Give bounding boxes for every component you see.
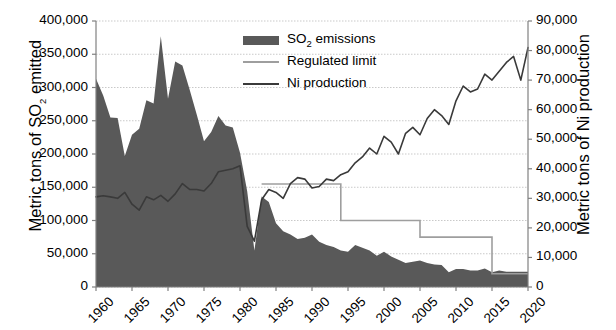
y-axis-right-tick-label: 80,000 (536, 42, 606, 57)
y-axis-left-tick-label: 0 (22, 278, 88, 293)
y-axis-right-tick-label: 60,000 (536, 101, 606, 116)
y-axis-left-tick-label: 250,000 (22, 112, 88, 127)
y-axis-right-tick-label: 40,000 (536, 160, 606, 175)
legend-line-swatch-icon (243, 61, 279, 63)
y-axis-right-tick-label: 90,000 (536, 12, 606, 27)
y-axis-left-tick-label: 300,000 (22, 79, 88, 94)
y-axis-right-tick-label: 50,000 (536, 130, 606, 145)
legend-label: SO2 emissions (287, 31, 376, 49)
y-axis-right-tick-label: 70,000 (536, 71, 606, 86)
so2-emissions-area (96, 36, 528, 287)
y-axis-left-tick-label: 150,000 (22, 178, 88, 193)
chart-container: Metric tons of SO2 emitted Metric tons o… (0, 0, 616, 330)
y-axis-right-tick-label: 0 (536, 278, 606, 293)
y-axis-left-tick-label: 400,000 (22, 12, 88, 27)
y-axis-right-tick-label: 10,000 (536, 248, 606, 263)
plot-svg (0, 0, 616, 330)
y-axis-left-tick-label: 350,000 (22, 45, 88, 60)
legend-label: Ni production (287, 75, 367, 90)
legend-area-swatch-icon (243, 36, 279, 45)
legend-line-swatch-icon (243, 83, 279, 85)
y-axis-left-tick-label: 100,000 (22, 212, 88, 227)
y-axis-right-tick-label: 20,000 (536, 219, 606, 234)
y-axis-left-tick-label: 50,000 (22, 245, 88, 260)
y-axis-right-tick-label: 30,000 (536, 189, 606, 204)
y-axis-left-tick-label: 200,000 (22, 145, 88, 160)
legend-label: Regulated limit (287, 53, 376, 68)
